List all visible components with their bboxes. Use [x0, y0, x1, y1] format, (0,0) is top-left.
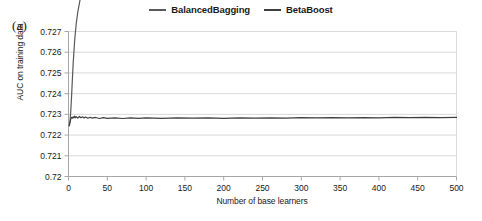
y-tick-labels: 0.720.7210.7220.7230.7240.7250.7260.727 [40, 27, 62, 182]
x-tick-label: 0 [66, 183, 71, 193]
x-tick-label: 200 [217, 183, 231, 193]
y-tick-label: 0.725 [40, 68, 62, 78]
y-tick-label: 0.727 [40, 27, 62, 37]
y-tick-label: 0.724 [40, 89, 62, 99]
line-chart-plot: 0.720.7210.7220.7230.7240.7250.7260.727 … [0, 0, 482, 221]
y-tick-label: 0.721 [40, 151, 62, 161]
x-tick-label: 50 [103, 183, 113, 193]
grid-lines [69, 32, 457, 177]
series-line-betaboost [69, 116, 456, 126]
x-tick-label: 500 [449, 183, 463, 193]
y-tick-label: 0.722 [40, 130, 62, 140]
series-line-balancedbagging [69, 0, 456, 126]
x-tick-labels: 050100150200250300350400450500 [66, 183, 464, 193]
axis-lines [65, 32, 457, 181]
data-series [69, 0, 456, 126]
x-tick-label: 300 [294, 183, 308, 193]
x-tick-label: 250 [255, 183, 269, 193]
y-tick-label: 0.726 [40, 47, 62, 57]
x-tick-label: 100 [139, 183, 153, 193]
x-tick-label: 400 [372, 183, 386, 193]
x-tick-label: 350 [333, 183, 347, 193]
x-tick-label: 150 [178, 183, 192, 193]
figure-panel: (a) BalancedBagging BetaBoost AUC on tra… [0, 0, 482, 221]
x-tick-label: 450 [411, 183, 425, 193]
y-tick-label: 0.723 [40, 109, 62, 119]
y-tick-label: 0.72 [45, 172, 62, 182]
